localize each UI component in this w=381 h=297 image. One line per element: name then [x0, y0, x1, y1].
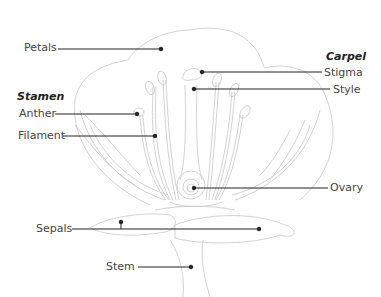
label-petals: Petals: [24, 42, 57, 53]
label-anther: Anther: [19, 108, 56, 119]
label-stem: Stem: [106, 261, 135, 272]
flower-illustration: [0, 0, 381, 297]
label-stigma: Stigma: [324, 67, 363, 78]
label-sepals: Sepals: [36, 223, 72, 234]
label-ovary: Ovary: [330, 182, 363, 193]
label-style: Style: [333, 84, 361, 95]
group-heading-carpel: Carpel: [326, 51, 366, 62]
group-heading-stamen: Stamen: [17, 91, 64, 102]
label-filament: Filament: [18, 130, 65, 141]
